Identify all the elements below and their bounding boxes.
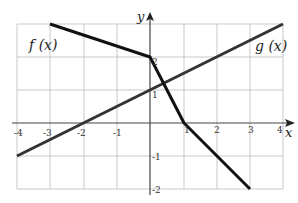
graph: -4 -3 -2 -1 1 2 3 4 2 1 -1 -2 x y f (x) … bbox=[0, 0, 298, 203]
x-axis-label: x bbox=[285, 125, 293, 140]
y-tick: -2 bbox=[152, 185, 161, 195]
x-tick: -1 bbox=[113, 128, 122, 138]
x-tick: -4 bbox=[14, 128, 23, 138]
x-tick: 4 bbox=[277, 125, 283, 135]
x-tick: 1 bbox=[184, 125, 190, 135]
x-tick: 3 bbox=[248, 125, 254, 135]
y-axis-label: y bbox=[136, 9, 145, 24]
f-label: f (x) bbox=[28, 37, 57, 53]
x-tick: 2 bbox=[214, 125, 220, 135]
y-tick: 2 bbox=[152, 57, 158, 67]
y-tick: 1 bbox=[152, 90, 158, 100]
g-label: g (x) bbox=[255, 38, 287, 54]
x-tick: -3 bbox=[43, 128, 52, 138]
x-tick: -2 bbox=[77, 128, 86, 138]
y-tick: -1 bbox=[152, 152, 161, 162]
